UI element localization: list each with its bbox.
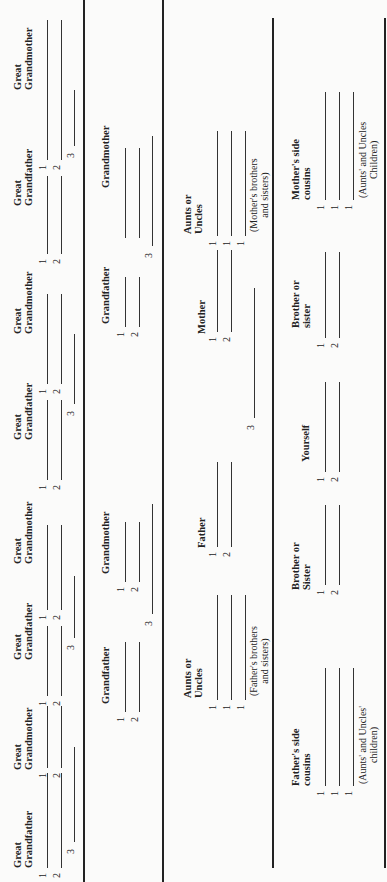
input-line-3[interactable] [152,136,153,246]
label-great-grandfather-1: GreatGreat GrandfatherGrandfather [12,811,34,868]
label-great-grandmother-4: GreatGrandmother [12,28,34,90]
input-line[interactable] [47,525,48,610]
input-line[interactable] [217,462,218,547]
input-line-3[interactable] [254,288,255,418]
num-3: 3 [66,411,76,416]
input-line[interactable] [139,522,140,582]
input-line[interactable] [125,277,126,327]
input-line-3[interactable] [152,504,153,614]
input-line[interactable] [325,382,326,472]
input-line[interactable] [325,252,326,338]
input-line[interactable] [61,400,62,480]
input-line[interactable] [217,595,218,700]
input-line[interactable] [231,462,232,547]
input-line[interactable] [61,20,62,160]
label-brother-sister-left: Brother orSister [290,542,312,590]
label-mother-aunts-uncles: Aunts orUncles [182,195,204,234]
label-great-grandfather-2: GreatGrandfather [12,603,34,660]
label-great-grandmother-3: GreatGrandmother [12,272,34,334]
input-line[interactable] [139,642,140,712]
label-brother-sister-right: Brother orsister [290,280,312,328]
label-mother: Mother [196,300,207,334]
input-line[interactable] [325,92,326,200]
input-line[interactable] [325,505,326,585]
input-line[interactable] [47,773,48,868]
input-line[interactable] [339,252,340,338]
input-line[interactable] [339,382,340,472]
divider-middle [162,0,164,882]
label-grandmother-1: Grandmother [100,512,111,574]
input-line[interactable] [339,505,340,585]
label-great-grandfather-4: GreatGrandfather [12,149,34,206]
num-3: 3 [246,425,256,430]
input-line[interactable] [47,294,48,384]
note-mother-siblings: (Mother's brothersand sisters) [248,158,270,232]
input-line[interactable] [47,626,48,696]
input-line[interactable] [125,522,126,582]
input-line[interactable] [325,668,326,786]
input-line[interactable] [353,92,354,200]
input-line[interactable] [61,626,62,696]
input-line[interactable] [339,92,340,200]
input-line[interactable] [139,277,140,327]
input-line[interactable] [47,176,48,254]
divider-bottom-top [272,18,274,868]
label-mother-side-cousins: Mother's sidecousins [290,139,312,200]
input-line[interactable] [353,668,354,786]
num-3: 3 [66,645,76,650]
input-line[interactable] [217,250,218,332]
input-line[interactable] [125,148,126,238]
note-mother-cousins: (Aunts' and UnclesChildren) [357,122,379,198]
input-line[interactable] [47,400,48,480]
num-3: 3 [66,849,76,854]
divider-bottom [384,18,386,868]
input-line[interactable] [139,148,140,238]
input-line[interactable] [47,20,48,160]
input-line[interactable] [217,131,218,236]
label-great-grandmother-2: GreatGrandmother [12,502,34,564]
label-grandmother-2: Grandmother [100,126,111,188]
label-father-aunts-uncles: Aunts orUncles [182,659,204,698]
label-yourself: Yourself [300,425,311,462]
note-father-siblings: (Father's brothersand sisters) [248,626,270,696]
input-line[interactable] [125,642,126,712]
label-great-grandmother-1: GreatGrandmother [12,708,34,770]
label-grandfather-2: Grandfather [100,267,111,324]
input-line[interactable] [61,176,62,254]
input-line-3[interactable] [74,576,75,638]
input-line[interactable] [231,595,232,700]
input-line[interactable] [61,525,62,610]
num-3: 3 [144,253,154,258]
label-grandfather-1: Grandfather [100,647,111,704]
input-line-3[interactable] [74,90,75,146]
input-line[interactable] [245,595,246,700]
input-line[interactable] [231,131,232,236]
num-3: 3 [66,153,76,158]
num-3: 3 [144,621,154,626]
input-line[interactable] [245,131,246,236]
label-great-grandfather-3: GreatGrandfather [12,383,34,440]
input-line-3[interactable] [74,334,75,404]
input-line[interactable] [61,773,62,868]
input-line-3[interactable] [74,747,75,842]
input-line[interactable] [47,706,48,768]
input-line[interactable] [339,668,340,786]
input-line[interactable] [61,706,62,768]
label-father: Father [196,518,207,548]
label-father-side-cousins: Father's sidecousins [290,729,312,786]
family-tree-form: GreatGreat GrandfatherGrandfather 1 2 3 … [0,0,387,882]
divider-top [83,0,85,882]
input-line[interactable] [231,250,232,332]
note-father-cousins: (Aunts' and Uncles'children) [357,706,379,784]
input-line[interactable] [61,294,62,384]
